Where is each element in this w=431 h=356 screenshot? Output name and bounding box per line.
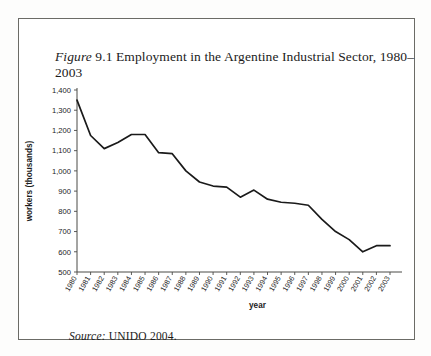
y-axis-ticks: 5006007008009001,0001,1001,2001,3001,400 bbox=[52, 86, 77, 277]
y-tick-label: 1,300 bbox=[52, 106, 71, 115]
y-axis-title: workers (thousands) bbox=[25, 140, 34, 222]
y-tick-label: 800 bbox=[58, 207, 71, 216]
y-tick-label: 900 bbox=[58, 187, 71, 196]
source-note: Source: UNIDO 2004. bbox=[69, 330, 177, 342]
x-tick-label: 1983 bbox=[104, 275, 120, 294]
source-label: Source: bbox=[69, 330, 106, 342]
x-tick-label: 1980 bbox=[63, 275, 79, 294]
x-tick-label: 1984 bbox=[117, 275, 133, 294]
x-tick-label: 1994 bbox=[253, 275, 269, 294]
x-tick-label: 2001 bbox=[349, 275, 365, 294]
x-tick-label: 1987 bbox=[158, 275, 174, 294]
figure-caption-number: 9.1 bbox=[95, 49, 112, 64]
x-tick-label: 1982 bbox=[90, 275, 106, 294]
x-tick-label: 1990 bbox=[199, 275, 215, 294]
x-tick-label: 2002 bbox=[362, 275, 378, 294]
x-axis-ticks: 1980198119821983198419851986198719881989… bbox=[63, 272, 392, 293]
x-tick-label: 1981 bbox=[76, 275, 92, 294]
x-tick-label: 2000 bbox=[335, 275, 351, 294]
x-tick-label: 1992 bbox=[226, 275, 242, 294]
x-tick-label: 1989 bbox=[185, 275, 201, 294]
employment-series-line bbox=[77, 100, 390, 252]
x-tick-label: 1993 bbox=[240, 275, 256, 294]
y-tick-label: 1,400 bbox=[52, 86, 71, 95]
y-tick-label: 500 bbox=[58, 268, 71, 277]
source-value: UNIDO 2004. bbox=[109, 330, 177, 342]
y-tick-label: 600 bbox=[58, 248, 71, 257]
y-tick-label: 700 bbox=[58, 227, 71, 236]
x-tick-label: 1997 bbox=[294, 275, 310, 294]
x-tick-label: 2003 bbox=[376, 275, 392, 294]
x-tick-label: 1995 bbox=[267, 275, 283, 294]
x-tick-label: 1986 bbox=[144, 275, 160, 294]
y-tick-label: 1,100 bbox=[52, 146, 71, 155]
x-tick-label: 1985 bbox=[131, 275, 147, 294]
line-chart: 5006007008009001,0001,1001,2001,3001,400… bbox=[18, 70, 415, 310]
x-tick-label: 1991 bbox=[213, 275, 229, 294]
x-tick-label: 1999 bbox=[321, 275, 337, 294]
x-tick-label: 1988 bbox=[172, 275, 188, 294]
y-tick-label: 1,000 bbox=[52, 167, 71, 176]
figure-caption-label: Figure bbox=[55, 49, 92, 64]
chart-canvas: 5006007008009001,0001,1001,2001,3001,400… bbox=[18, 70, 415, 310]
x-tick-label: 1996 bbox=[281, 275, 297, 294]
x-tick-label: 1998 bbox=[308, 275, 324, 294]
x-axis-title: year bbox=[249, 301, 267, 310]
y-tick-label: 1,200 bbox=[52, 126, 71, 135]
